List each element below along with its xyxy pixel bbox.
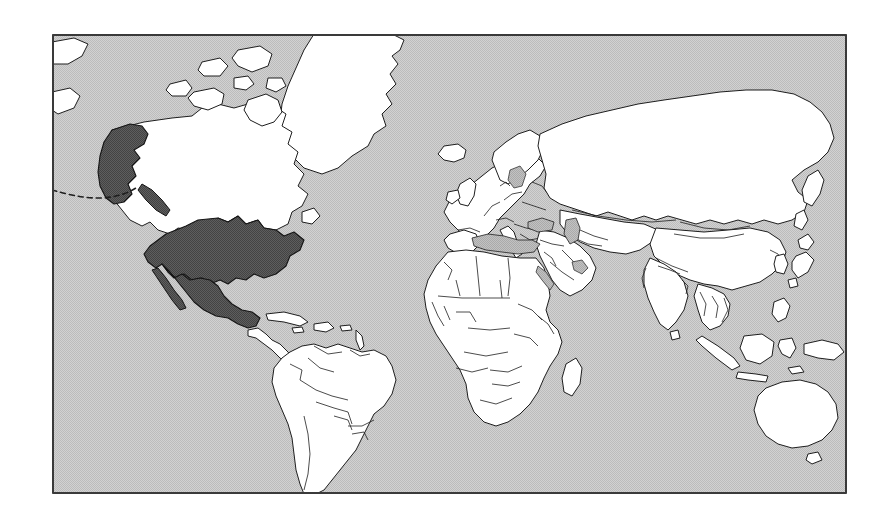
region-sri-lanka	[670, 330, 680, 340]
world-map-svg	[52, 34, 847, 494]
region-canada	[106, 104, 308, 234]
world-map-figure	[52, 34, 847, 494]
region-puerto-rico	[340, 325, 352, 331]
region-japan-kyushu	[788, 278, 798, 288]
region-jamaica	[292, 327, 304, 333]
page-root	[0, 0, 887, 527]
